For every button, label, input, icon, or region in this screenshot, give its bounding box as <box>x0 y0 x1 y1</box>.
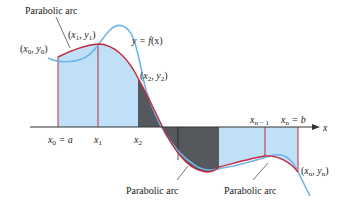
tick-label-xn-minus-1: xn − 1 <box>249 114 269 127</box>
light-strip-last-pair <box>219 127 298 172</box>
point-label-x1-y1: (x1, y1) <box>68 29 96 42</box>
tick-label-xn-b: xn = b <box>280 114 306 127</box>
function-label: y = f(x) <box>131 35 163 47</box>
x-axis-arrow-icon <box>312 124 320 130</box>
tick-label-x1: x1 <box>93 134 102 147</box>
x-axis-label: x <box>322 122 328 133</box>
annotation-parabolic-arc-top: Parabolic arc <box>25 5 78 16</box>
annotation-parabolic-arc-middle: Parabolic arc <box>126 185 179 196</box>
tick-label-x0-a: x0 = a <box>47 134 73 147</box>
point-label-x0-y0: (x0, y0) <box>20 43 48 56</box>
simpsons-rule-diagram: x Parabolic arc Parabolic arc Parabolic … <box>0 0 349 213</box>
dark-strip-middle <box>138 78 219 172</box>
annotation-parabolic-arc-right: Parabolic arc <box>224 185 277 196</box>
tick-label-x2: x2 <box>133 134 142 147</box>
point-label-xn-yn: (xn, yn) <box>301 165 329 178</box>
